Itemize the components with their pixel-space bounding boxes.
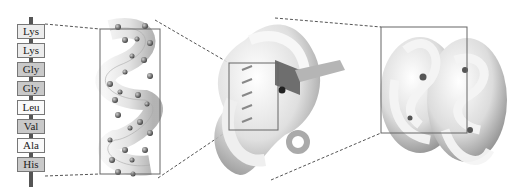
protein-structure-figure: Lys Lys Gly Gly Leu Val Ala His [0,0,522,192]
tertiary-fold [214,24,345,175]
connector-lines-1 [45,24,100,176]
quaternary-assembly [380,27,507,162]
structure-illustrations [0,0,522,192]
alpha-helix [100,23,160,177]
